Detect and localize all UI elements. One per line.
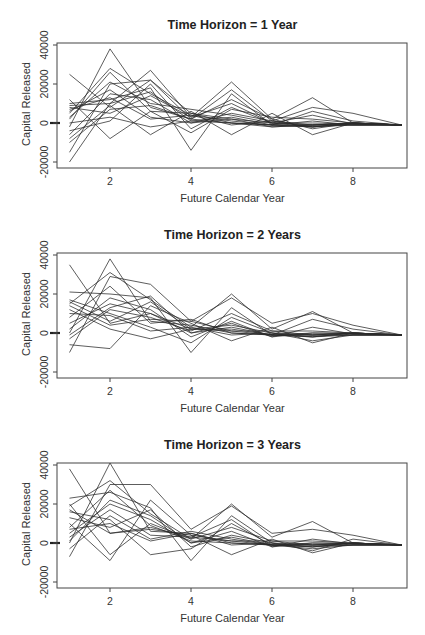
y-tick-label: 0 [38, 330, 50, 336]
x-tick-label: 8 [350, 595, 356, 607]
line-plot-horizon-2: 2468-2000002000040000 [0, 210, 425, 420]
series-line [70, 492, 402, 560]
x-tick-label: 4 [188, 175, 194, 187]
series-line [70, 72, 402, 127]
y-tick-label: 0 [38, 120, 50, 126]
y-tick-label: 40000 [38, 240, 50, 269]
series-line [70, 292, 402, 353]
x-tick-label: 4 [188, 385, 194, 397]
line-plot-horizon-3: 2468-2000002000040000 [0, 420, 425, 630]
x-tick-label: 6 [269, 175, 275, 187]
x-tick-label: 6 [269, 385, 275, 397]
x-tick-label: 2 [107, 595, 113, 607]
series-line [70, 504, 402, 555]
y-tick-label: -20000 [38, 355, 50, 388]
y-tick-label: 20000 [38, 69, 50, 98]
series-line [70, 306, 402, 349]
x-tick-label: 2 [107, 385, 113, 397]
line-plot-horizon-1: 2468-2000002000040000 [0, 0, 425, 210]
series-line [70, 277, 402, 353]
panel-horizon-2: Time Horizon = 2 Years Future Calendar Y… [0, 210, 425, 420]
x-tick-label: 4 [188, 595, 194, 607]
y-tick-label: -20000 [38, 145, 50, 178]
y-tick-label: 20000 [38, 489, 50, 518]
x-tick-label: 8 [350, 175, 356, 187]
plot-frame [57, 463, 407, 588]
panel-horizon-3: Time Horizon = 3 Years Future Calendar Y… [0, 420, 425, 630]
y-tick-label: 20000 [38, 279, 50, 308]
series-line [70, 463, 402, 547]
x-tick-label: 6 [269, 595, 275, 607]
x-tick-label: 2 [107, 175, 113, 187]
y-tick-label: 40000 [38, 30, 50, 59]
panel-horizon-1: Time Horizon = 1 Year Future Calendar Ye… [0, 0, 425, 210]
y-tick-label: 0 [38, 540, 50, 546]
x-tick-label: 8 [350, 385, 356, 397]
y-tick-label: 40000 [38, 450, 50, 479]
series-line [70, 74, 402, 125]
series-line [70, 49, 402, 127]
y-tick-label: -20000 [38, 565, 50, 598]
